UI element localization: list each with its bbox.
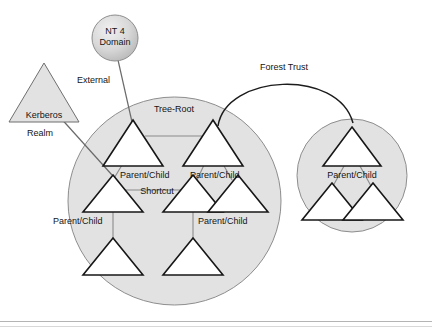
tree-root-label: Tree-Root — [154, 104, 195, 114]
external-trust-label: External — [77, 75, 110, 85]
nt4-domain-label-line2: Domain — [99, 37, 130, 47]
shortcut-label: Shortcut — [140, 186, 174, 196]
parent-child-label-1: Parent/Child — [120, 170, 170, 180]
realm-label: Realm — [27, 128, 53, 138]
forest-trust-label: Forest Trust — [260, 62, 309, 72]
nt4-domain-label-line1: NT 4 — [105, 26, 124, 36]
parent-child-label-3: Parent/Child — [53, 216, 103, 226]
parent-child-label-2: Parent/Child — [190, 170, 240, 180]
trust-relationship-diagram: NT 4 Domain Kerberos Realm External Fore… — [0, 0, 432, 334]
kerberos-label: Kerberos — [26, 110, 63, 120]
parent-child-label-4: Parent/Child — [198, 216, 248, 226]
parent-child-label-5: Parent/Child — [327, 170, 377, 180]
diagram-page: NT 4 Domain Kerberos Realm External Fore… — [0, 0, 432, 334]
